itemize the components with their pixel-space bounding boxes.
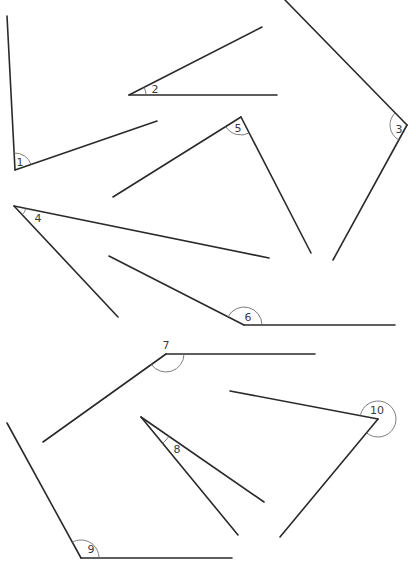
angle-4-arm-2 xyxy=(14,206,118,317)
angle-7: 7 xyxy=(43,339,315,442)
angle-9-arm-1 xyxy=(7,423,81,558)
angle-label: 7 xyxy=(163,339,170,352)
angle-label: 5 xyxy=(235,122,242,135)
angle-8-arm-2 xyxy=(141,417,238,535)
angle-label: 1 xyxy=(17,156,24,169)
angle-10-arm-2 xyxy=(280,419,378,537)
angle-1-arm-2 xyxy=(15,121,157,170)
angle-2-arm-1 xyxy=(129,27,262,95)
angle-6: 6 xyxy=(109,256,395,325)
angle-label: 9 xyxy=(88,543,95,556)
angle-4-arm-1 xyxy=(14,206,269,258)
angle-label: 4 xyxy=(35,212,42,225)
angle-3-arm-2 xyxy=(333,125,407,260)
angle-7-arm-1 xyxy=(43,354,166,442)
angle-label: 3 xyxy=(396,123,403,136)
angle-8-arm-1 xyxy=(141,417,264,502)
angle-3: 3 xyxy=(285,0,407,260)
angle-1-arm-1 xyxy=(7,16,15,170)
angle-2: 2 xyxy=(129,27,277,96)
angle-10: 10 xyxy=(230,391,396,537)
angle-label: 6 xyxy=(245,311,252,324)
angle-4-arc xyxy=(22,208,26,214)
angles-diagram: 12345678910 xyxy=(0,0,416,574)
angle-8: 8 xyxy=(141,417,264,535)
angle-10-arm-1 xyxy=(230,391,378,419)
angle-5-arm-2 xyxy=(241,117,311,253)
angle-9: 9 xyxy=(7,423,232,558)
angle-6-arm-1 xyxy=(109,256,244,325)
angle-2-arc xyxy=(144,87,146,95)
angle-4: 4 xyxy=(14,206,269,317)
angle-label: 10 xyxy=(370,404,384,417)
angle-7-arc xyxy=(151,354,184,372)
angle-label: 8 xyxy=(174,443,181,456)
angle-label: 2 xyxy=(152,83,159,96)
angle-3-arm-1 xyxy=(285,0,407,125)
angle-8-arc xyxy=(163,436,169,443)
